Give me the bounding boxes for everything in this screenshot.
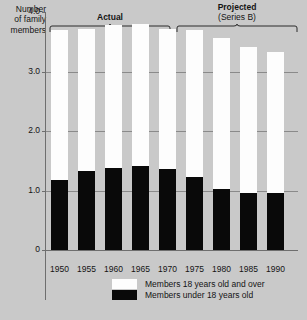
bar-1990 xyxy=(267,52,284,250)
plot-area: 195019551960196519701975198019851990 xyxy=(46,12,298,250)
bar-segment-over-1980 xyxy=(213,38,230,189)
bar-segment-under-1960 xyxy=(105,168,122,250)
legend-item-over: Members 18 years old and over xyxy=(112,278,265,289)
bar-segment-under-1950 xyxy=(51,180,68,250)
x-tick-label-1990: 1990 xyxy=(261,264,291,274)
bar-segment-under-1985 xyxy=(240,193,257,250)
x-tick-label-1975: 1975 xyxy=(180,264,210,274)
y-tick-label-0: 0 xyxy=(0,244,40,254)
y-tick-label-3.0: 3.0 xyxy=(0,66,40,76)
y-tick-label-1.0: 1.0 xyxy=(0,185,40,195)
legend-item-under: Members under 18 years old xyxy=(112,289,265,300)
bar-1950 xyxy=(51,30,68,250)
legend-swatch-white xyxy=(112,279,137,289)
y-tick-label-2.0: 2.0 xyxy=(0,125,40,135)
bar-segment-over-1970 xyxy=(159,29,176,169)
bar-segment-under-1980 xyxy=(213,189,230,250)
x-tick-label-1965: 1965 xyxy=(126,264,156,274)
bar-segment-over-1955 xyxy=(78,29,95,172)
bar-segment-over-1975 xyxy=(186,30,203,178)
bar-segment-under-1990 xyxy=(267,193,284,250)
bar-1970 xyxy=(159,29,176,250)
legend-label-under: Members under 18 years old xyxy=(145,290,253,300)
bar-segment-over-1990 xyxy=(267,52,284,192)
bar-segment-under-1970 xyxy=(159,169,176,250)
bar-1980 xyxy=(213,38,230,250)
bar-segment-under-1965 xyxy=(132,166,149,250)
bar-segment-over-1960 xyxy=(105,25,122,168)
x-tick-label-1970: 1970 xyxy=(153,264,183,274)
bar-1955 xyxy=(78,29,95,250)
bar-1960 xyxy=(105,25,122,250)
legend-label-over: Members 18 years old and over xyxy=(145,279,265,289)
y-tick-label-4.0: 4.0 xyxy=(0,6,40,16)
tick-mark-1.0 xyxy=(42,191,46,192)
bar-segment-over-1965 xyxy=(132,24,149,166)
x-tick-label-1980: 1980 xyxy=(207,264,237,274)
x-tick-label-1955: 1955 xyxy=(72,264,102,274)
bar-1985 xyxy=(240,47,257,250)
tick-mark-2.0 xyxy=(42,131,46,132)
bar-1965 xyxy=(132,24,149,250)
bar-segment-over-1950 xyxy=(51,30,68,180)
x-tick-label-1950: 1950 xyxy=(45,264,75,274)
chart-legend: Members 18 years old and over Members un… xyxy=(112,278,265,300)
bar-segment-under-1955 xyxy=(78,171,95,250)
x-tick-label-1960: 1960 xyxy=(99,264,129,274)
tick-mark-4.0 xyxy=(42,12,46,13)
family-size-bar-chart: Number of family members Actual Projecte… xyxy=(0,0,307,320)
bar-segment-over-1985 xyxy=(240,47,257,193)
y-axis-title-line-3: members xyxy=(2,25,46,35)
legend-swatch-black xyxy=(112,290,137,300)
bracket-projected-title: Projected xyxy=(176,2,298,12)
tick-mark-0 xyxy=(42,250,46,251)
x-axis-baseline xyxy=(46,250,298,251)
bar-segment-under-1975 xyxy=(186,177,203,250)
x-tick-label-1985: 1985 xyxy=(234,264,264,274)
bar-1975 xyxy=(186,30,203,250)
tick-mark-3.0 xyxy=(42,72,46,73)
